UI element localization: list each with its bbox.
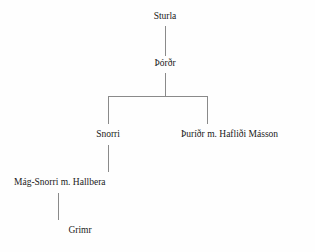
node-magsnorri: Mág-Snorri m. Hallbera [14,178,106,188]
edge-snorri-magsnorri [108,145,109,172]
node-grimr: Grimr [68,226,91,236]
edge-magsnorri-grimr [58,193,59,220]
node-thuridr: Þuríðr m. Hafliði Másson [181,130,278,140]
edge-fork-right [207,96,208,124]
edge-fork-left [108,96,109,124]
edge-fork-bar [108,96,208,97]
node-snorri: Snorri [96,130,120,140]
node-thordr: Þórðr [154,59,175,69]
node-sturla: Sturla [154,12,177,22]
genealogy-tree: Sturla Þórðr Snorri Þuríðr m. Hafliði Má… [0,0,315,252]
edge-thordr-stem [165,73,166,96]
edge-sturla-thordr [165,26,166,56]
